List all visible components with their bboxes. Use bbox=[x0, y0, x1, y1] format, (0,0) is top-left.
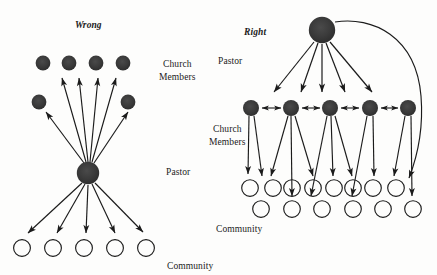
left-church-members-label: Church Members bbox=[159, 58, 196, 84]
left-pastor-to-community-arrows bbox=[28, 183, 143, 233]
right-church-members-label-line1: Church bbox=[209, 123, 246, 136]
left-pastor-to-members-arrows bbox=[46, 78, 128, 163]
right-pastor-node bbox=[309, 17, 335, 43]
left-pastor-node bbox=[77, 162, 99, 184]
right-pastor-to-members-arrows bbox=[274, 42, 372, 92]
right-pastor-label: Pastor bbox=[218, 56, 242, 67]
right-community-nodes-row-2 bbox=[253, 201, 422, 218]
right-community-label: Community bbox=[216, 224, 262, 235]
left-community-label: Community bbox=[167, 261, 213, 272]
right-community-nodes-row-1 bbox=[242, 180, 405, 197]
right-panel-group bbox=[242, 17, 422, 218]
left-church-member-nodes bbox=[32, 56, 136, 110]
left-community-nodes bbox=[14, 240, 155, 257]
right-pastor-curved-arrow bbox=[335, 21, 422, 178]
left-panel-heading: Wrong bbox=[75, 20, 102, 31]
right-church-members-label-line2: Members bbox=[209, 136, 246, 149]
left-panel-group bbox=[14, 56, 155, 257]
left-church-members-label-line2: Members bbox=[159, 71, 196, 84]
right-members-to-community-arrows bbox=[248, 116, 412, 196]
left-pastor-label: Pastor bbox=[166, 167, 190, 178]
left-church-members-label-line1: Church bbox=[159, 58, 196, 71]
right-panel-heading: Right bbox=[244, 27, 266, 38]
diagram-figure: Wrong Church Members Pastor Community Ri… bbox=[0, 0, 437, 275]
right-church-members-label: Church Members bbox=[209, 123, 246, 149]
